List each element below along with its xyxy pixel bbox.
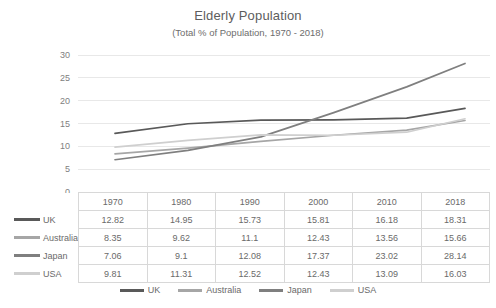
table-cell: 14.95: [147, 211, 216, 229]
table-row-header: UK: [14, 211, 79, 229]
table-cell: 9.62: [147, 229, 216, 247]
data-table: 197019801990200020102018 UK12.8214.9515.…: [14, 192, 490, 283]
series-swatch-icon: [14, 254, 40, 257]
table-column-header: 1970: [79, 193, 148, 211]
table-cell: 12.52: [216, 265, 285, 283]
series-name-label: USA: [43, 269, 62, 279]
chart-subtitle: (Total % of Population, 1970 - 2018): [0, 26, 496, 40]
table-row: USA9.8111.3112.5212.4313.0916.03: [14, 265, 490, 283]
table-cell: 8.35: [79, 229, 148, 247]
table-column-header: 2010: [353, 193, 422, 211]
legend-item-australia[interactable]: Australia: [178, 285, 241, 295]
table-row-header: USA: [14, 265, 79, 283]
series-line-australia: [115, 120, 465, 153]
table-cell: 7.06: [79, 247, 148, 265]
chart-title-block: Elderly Population (Total % of Populatio…: [0, 8, 496, 40]
table-row-header: Japan: [14, 247, 79, 265]
table-cell: 15.81: [284, 211, 353, 229]
legend-label: UK: [148, 285, 161, 295]
table-row: UK12.8214.9515.7315.8116.1818.31: [14, 211, 490, 229]
series-name-label: Australia: [43, 233, 78, 243]
legend-item-usa[interactable]: USA: [330, 285, 377, 295]
table-cell: 18.31: [421, 211, 490, 229]
table-corner-cell: [14, 193, 79, 211]
table-cell: 16.03: [421, 265, 490, 283]
legend-swatch-icon: [178, 289, 202, 292]
legend-swatch-icon: [259, 289, 283, 292]
table-header-row: 197019801990200020102018: [14, 193, 490, 211]
table-cell: 28.14: [421, 247, 490, 265]
table-cell: 13.09: [353, 265, 422, 283]
table-body: UK12.8214.9515.7315.8116.1818.31Australi…: [14, 211, 490, 283]
table-cell: 12.82: [79, 211, 148, 229]
series-swatch-icon: [14, 236, 40, 239]
table-cell: 11.1: [216, 229, 285, 247]
table-cell: 16.18: [353, 211, 422, 229]
table-column-header: 2018: [421, 193, 490, 211]
series-name-label: Japan: [43, 251, 68, 261]
series-swatch-icon: [14, 272, 40, 275]
table-cell: 12.08: [216, 247, 285, 265]
legend-label: USA: [358, 285, 377, 295]
legend-swatch-icon: [120, 289, 144, 292]
table-cell: 9.81: [79, 265, 148, 283]
table-cell: 11.31: [147, 265, 216, 283]
table-cell: 9.1: [147, 247, 216, 265]
series-name-label: UK: [43, 215, 56, 225]
table-cell: 12.43: [284, 229, 353, 247]
series-swatch-icon: [14, 218, 40, 221]
table-cell: 15.73: [216, 211, 285, 229]
plot-area: 051015202530: [0, 48, 496, 196]
table-row: Australia8.359.6211.112.4313.5615.66: [14, 229, 490, 247]
table-column-header: 1990: [216, 193, 285, 211]
table-cell: 12.43: [284, 265, 353, 283]
table-column-header: 2000: [284, 193, 353, 211]
table-row: Japan7.069.112.0817.3723.0228.14: [14, 247, 490, 265]
page-title: Elderly Population: [0, 8, 496, 24]
legend-label: Japan: [287, 285, 312, 295]
chart-container: Elderly Population (Total % of Populatio…: [0, 0, 496, 308]
table-cell: 17.37: [284, 247, 353, 265]
table-cell: 15.66: [421, 229, 490, 247]
legend-swatch-icon: [330, 289, 354, 292]
table-row-header: Australia: [14, 229, 79, 247]
chart-legend: UKAustraliaJapanUSA: [0, 285, 496, 295]
table-cell: 23.02: [353, 247, 422, 265]
legend-item-uk[interactable]: UK: [120, 285, 161, 295]
line-chart-plot: [0, 48, 496, 196]
legend-label: Australia: [206, 285, 241, 295]
data-table-wrap: 197019801990200020102018 UK12.8214.9515.…: [14, 192, 490, 283]
table-cell: 13.56: [353, 229, 422, 247]
legend-item-japan[interactable]: Japan: [259, 285, 312, 295]
table-column-header: 1980: [147, 193, 216, 211]
